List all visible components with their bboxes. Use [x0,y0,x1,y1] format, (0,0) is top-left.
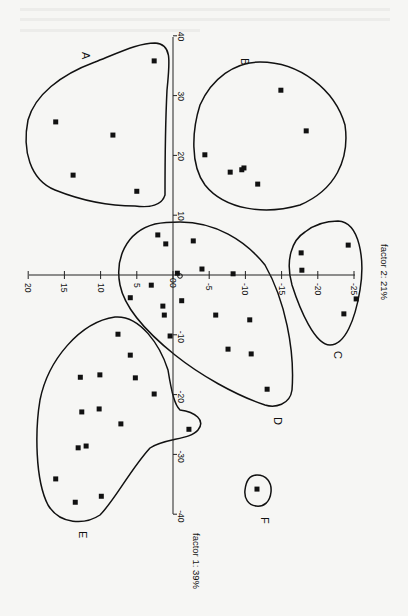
data-point-d [160,304,165,309]
cluster-label-c: C [332,351,344,359]
factor2-tick-label: 10 [96,283,106,293]
data-point-e [128,353,133,358]
data-point-e [133,375,138,380]
data-point-b [304,128,309,133]
origin-marker [178,274,183,279]
data-point-b [255,182,260,187]
data-point-d [168,333,173,338]
data-point-e [152,392,157,397]
data-points [53,58,358,504]
data-point-d [247,317,252,322]
factor1-ticks: 403020100-10-20-30-40 [168,32,186,523]
data-point-a [53,119,58,124]
factor-scatter-chart: 403020100-10-20-30-40 20151050-5-10-15-2… [0,0,408,616]
data-point-c [299,268,304,273]
data-point-e [97,406,102,411]
data-point-d [175,271,180,276]
factor1-tick-label: 40 [176,32,186,42]
data-point-d [249,351,254,356]
data-point-b [278,88,283,93]
factor2-tick-label: 5 [132,283,142,288]
factor2-tick-label: 15 [59,283,69,293]
data-point-b [228,170,233,175]
data-point-e [78,375,83,380]
factor2-tick-label: -10 [240,283,250,296]
data-point-c [341,311,346,316]
data-point-d [213,313,218,318]
data-point-e [97,372,102,377]
cluster-label-a: A [80,52,92,60]
cluster-outline-a [26,43,169,207]
cluster-outline-e [37,317,201,522]
axes [29,37,355,514]
factor1-tick-label: 10 [176,211,186,221]
data-point-e [186,427,191,432]
data-point-d [191,238,196,243]
data-point-b [202,152,207,157]
factor1-tick-label: 30 [176,92,186,102]
factor1-tick-label: -20 [176,391,186,404]
data-point-e [115,332,120,337]
factor1-axis-title: factor 1: 39% [191,533,202,590]
factor2-axis-title: factor 2: 21% [379,244,390,301]
data-point-d [155,232,160,237]
cluster-outline-d [119,222,293,406]
cluster-label-d: D [272,417,284,425]
factor2-tick-label: -15 [277,283,287,296]
factor2-tick-label: -20 [313,283,323,296]
data-point-c [346,243,351,248]
factor1-tick-label: -40 [176,510,186,523]
factor1-tick-label: -30 [176,450,186,463]
factor2-tick-label: -25 [349,283,359,296]
data-point-d [128,295,133,300]
data-point-d [179,298,184,303]
data-point-a [134,189,139,194]
data-point-d [162,313,167,318]
factor2-tick-label: 20 [23,283,33,293]
data-point-e [84,444,89,449]
data-point-d [149,283,154,288]
data-point-d [199,267,204,272]
data-point-d [163,241,168,246]
data-point-e [76,445,81,450]
data-point-a [152,58,157,63]
data-point-d [265,387,270,392]
cluster-label-e: E [77,531,89,538]
factor1-tick-label: 20 [176,151,186,161]
data-point-e [99,494,104,499]
data-point-c [299,250,304,255]
factor2-tick-label: 0 [168,283,178,288]
factor2-tick-label: -5 [204,283,214,291]
data-point-e [73,500,78,505]
data-point-b [241,165,246,170]
data-point-a [110,133,115,138]
cluster-label-f: F [259,517,271,524]
data-point-a [71,173,76,178]
data-point-c [354,296,359,301]
factor1-tick-label: -10 [176,331,186,344]
data-point-e [79,409,84,414]
data-point-d [226,347,231,352]
cluster-outline-b [194,62,346,210]
data-point-e [53,476,58,481]
cluster-label-b: B [239,58,251,65]
data-point-e [118,421,123,426]
data-point-d [231,271,236,276]
data-point-f [254,487,259,492]
